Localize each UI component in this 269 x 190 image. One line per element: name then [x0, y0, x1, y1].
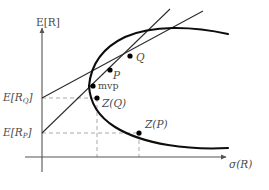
y-tick-label-erq: E[RQ]	[3, 92, 33, 104]
point-label-mvp: mvp	[98, 81, 118, 91]
frontier-upper-branch	[89, 28, 228, 86]
point-label-p: P	[113, 70, 120, 81]
erp-base: E[R	[3, 126, 23, 138]
point-q	[127, 53, 132, 58]
erq-close: ]	[29, 91, 33, 103]
marked-points	[90, 53, 141, 135]
erq-base: E[R	[3, 91, 23, 103]
mean-variance-frontier-figure: E[R] σ(R) E[RQ] E[RP] Q P mvp Z(Q) Z(P)	[0, 0, 269, 190]
point-label-q: Q	[136, 52, 145, 63]
point-label-zp: Z(P)	[145, 119, 168, 130]
point-label-zq: Z(Q)	[102, 98, 126, 109]
x-axis-label: σ(R)	[229, 159, 252, 170]
tangent-line-through-p	[42, 9, 170, 133]
x-axis-arg: (R)	[236, 158, 252, 170]
point-zp	[136, 130, 141, 135]
point-p	[107, 67, 112, 72]
point-mvp	[90, 83, 95, 88]
y-tick-label-erp: E[RP]	[3, 127, 32, 139]
erp-close: ]	[27, 126, 31, 138]
y-axis-label: E[R]	[36, 17, 60, 28]
point-zq	[94, 95, 99, 100]
